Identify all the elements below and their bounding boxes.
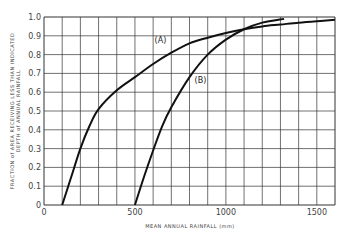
- grid: [44, 17, 335, 205]
- x-tick-label: 500: [127, 208, 142, 217]
- y-tick-label: 0.9: [28, 32, 41, 41]
- x-tick-label: 1500: [307, 208, 327, 217]
- y-tick-label: 0.1: [28, 182, 41, 191]
- rainfall-chart: (A)(B) 00.10.20.30.40.50.60.70.80.91.0 0…: [0, 0, 347, 235]
- x-axis-label: MEAN ANNUAL RAINFALL (mm): [145, 223, 235, 229]
- y-tick-label: 1.0: [28, 13, 41, 22]
- curve-label: (B): [195, 76, 207, 85]
- y-tick-label: 0.8: [28, 51, 41, 60]
- x-axis-ticks: 050010001500: [41, 208, 327, 217]
- y-tick-label: 0.7: [28, 69, 41, 78]
- curve-a: [62, 20, 335, 205]
- x-tick-label: 1000: [216, 208, 236, 217]
- x-tick-label: 0: [41, 208, 46, 217]
- y-tick-label: 0.6: [28, 88, 41, 97]
- y-tick-label: 0.2: [28, 163, 41, 172]
- y-tick-label: 0.3: [28, 145, 41, 154]
- curves: (A)(B): [62, 19, 335, 205]
- y-axis-ticks: 00.10.20.30.40.50.60.70.80.91.0: [28, 13, 41, 210]
- curve-b: [135, 19, 284, 205]
- y-axis-label-line2: DEPTH of ANNUAL RAINFALL: [15, 70, 21, 153]
- y-tick-label: 0.5: [28, 107, 41, 116]
- curve-label: (A): [155, 36, 167, 45]
- y-tick-label: 0.4: [28, 126, 41, 135]
- y-tick-label: 0: [36, 201, 41, 210]
